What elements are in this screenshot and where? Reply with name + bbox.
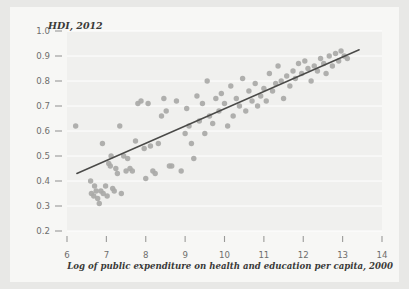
data-point — [73, 123, 78, 128]
data-point — [178, 168, 183, 173]
data-point — [237, 103, 242, 108]
data-point — [305, 66, 310, 71]
data-point — [296, 61, 301, 66]
data-point — [318, 56, 323, 61]
data-point — [93, 188, 98, 193]
data-point — [230, 113, 235, 118]
x-tick-label: 13 — [337, 250, 348, 260]
data-point — [156, 141, 161, 146]
y-tick-label: 0.2 — [36, 226, 50, 236]
data-point — [141, 146, 146, 151]
data-point — [191, 156, 196, 161]
data-point — [204, 78, 209, 83]
data-point — [225, 123, 230, 128]
data-point — [145, 101, 150, 106]
data-point — [133, 138, 138, 143]
chart-page: 0.20.30.40.50.60.70.80.91.0 678910111213… — [0, 0, 409, 289]
x-tick-label: 10 — [219, 250, 230, 260]
data-point — [219, 91, 224, 96]
data-point — [200, 101, 205, 106]
data-point — [161, 96, 166, 101]
y-tick-label: 0.5 — [36, 151, 50, 161]
data-point — [119, 191, 124, 196]
x-tick-labels-group: 67891011121314 — [64, 250, 387, 260]
data-point — [92, 183, 97, 188]
scatter-chart: 0.20.30.40.50.60.70.80.91.0 678910111213… — [10, 7, 399, 282]
y-axis-title: HDI, 2012 — [47, 20, 103, 32]
data-point — [169, 163, 174, 168]
data-point — [112, 188, 117, 193]
data-point — [246, 88, 251, 93]
data-point — [290, 68, 295, 73]
y-tickmarks-group — [55, 31, 62, 231]
data-point — [284, 73, 289, 78]
data-point — [194, 93, 199, 98]
data-point — [267, 71, 272, 76]
data-point — [345, 56, 350, 61]
data-point — [253, 81, 258, 86]
data-point — [138, 98, 143, 103]
data-point — [323, 71, 328, 76]
data-point — [113, 166, 118, 171]
data-point — [327, 53, 332, 58]
data-point — [148, 143, 153, 148]
y-tick-label: 0.4 — [36, 176, 50, 186]
x-tick-label: 11 — [258, 250, 269, 260]
data-point — [95, 196, 100, 201]
data-point — [115, 171, 120, 176]
x-tick-label: 9 — [182, 250, 187, 260]
data-point — [159, 113, 164, 118]
data-point — [287, 83, 292, 88]
data-point — [308, 78, 313, 83]
data-point — [189, 141, 194, 146]
chart-panel: 0.20.30.40.50.60.70.80.91.0 678910111213… — [10, 7, 399, 282]
data-point — [302, 58, 307, 63]
data-point — [255, 103, 260, 108]
y-tick-label: 0.8 — [36, 76, 50, 86]
data-point — [130, 168, 135, 173]
data-point — [240, 76, 245, 81]
data-point — [202, 131, 207, 136]
data-point — [275, 63, 280, 68]
data-point — [108, 163, 113, 168]
x-tick-label: 14 — [377, 250, 388, 260]
data-point — [333, 51, 338, 56]
data-point — [184, 106, 189, 111]
y-tick-labels-group: 0.20.30.40.50.60.70.80.91.0 — [36, 26, 50, 236]
data-point — [213, 96, 218, 101]
x-tick-label: 8 — [143, 250, 148, 260]
data-point — [143, 176, 148, 181]
data-point — [103, 183, 108, 188]
data-point — [182, 131, 187, 136]
data-point — [249, 98, 254, 103]
data-point — [117, 123, 122, 128]
data-point — [174, 98, 179, 103]
x-tickmarks-group — [67, 236, 382, 242]
y-tick-label: 0.3 — [36, 201, 50, 211]
data-point — [222, 101, 227, 106]
x-tick-label: 6 — [64, 250, 69, 260]
x-tick-label: 7 — [104, 250, 109, 260]
data-point — [281, 96, 286, 101]
data-point — [104, 193, 109, 198]
data-point — [243, 108, 248, 113]
y-tick-label: 0.7 — [36, 101, 50, 111]
data-point — [153, 171, 158, 176]
data-point — [264, 98, 269, 103]
data-point — [210, 121, 215, 126]
data-point — [88, 178, 93, 183]
data-point — [125, 156, 130, 161]
y-tick-label: 0.9 — [36, 51, 50, 61]
data-point — [100, 141, 105, 146]
data-point — [97, 201, 102, 206]
y-tick-label: 0.6 — [36, 126, 50, 136]
x-axis-title: Log of public expenditure on health and … — [66, 261, 393, 272]
data-point — [330, 63, 335, 68]
x-tick-label: 12 — [298, 250, 309, 260]
data-point — [234, 96, 239, 101]
data-point — [164, 108, 169, 113]
data-point — [228, 83, 233, 88]
data-point — [338, 48, 343, 53]
